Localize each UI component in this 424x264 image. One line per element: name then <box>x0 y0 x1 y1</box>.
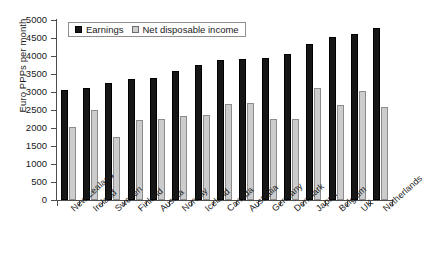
bar-group <box>306 20 321 200</box>
bar-earnings <box>262 58 269 200</box>
bar-net-disposable-income <box>225 104 232 200</box>
y-axis-tick-label: 1500 <box>26 140 47 152</box>
legend-label-earnings: Earnings <box>86 24 124 35</box>
y-axis-tick-label: 2500 <box>26 104 47 116</box>
y-axis-tick-label: 500 <box>31 176 47 188</box>
bar-net-disposable-income <box>337 105 344 200</box>
bar-earnings <box>128 79 135 200</box>
y-axis-tick-mark <box>51 164 56 165</box>
bar-group <box>329 20 344 200</box>
y-axis-tick-mark <box>51 110 56 111</box>
y-axis-tick-mark <box>51 20 56 21</box>
bar-group <box>262 20 277 200</box>
y-axis-tick-mark <box>51 56 56 57</box>
y-axis-tick-mark <box>51 38 56 39</box>
y-axis-tick: 3500 <box>0 68 56 80</box>
y-axis-tick: 4500 <box>0 32 56 44</box>
bar-earnings <box>239 59 246 200</box>
black-square-icon <box>75 26 82 33</box>
y-axis-tick-label: 1000 <box>26 158 47 170</box>
bar-earnings <box>195 65 202 200</box>
y-axis-tick: 0 <box>0 194 56 206</box>
bar-group <box>351 20 366 200</box>
bar-earnings <box>373 28 380 200</box>
y-axis-tick-mark <box>51 74 56 75</box>
y-axis-tick: 1500 <box>0 140 56 152</box>
y-axis-tick: 1000 <box>0 158 56 170</box>
y-axis-tick-label: 4500 <box>26 32 47 44</box>
bar-earnings <box>329 37 336 200</box>
chart-legend: Earnings Net disposable income <box>68 22 246 37</box>
y-axis-tick-label: 2000 <box>26 122 47 134</box>
y-axis-tick-label: 4000 <box>26 50 47 62</box>
y-axis-tick-mark <box>51 128 56 129</box>
bar-group <box>195 20 210 200</box>
bar-group <box>83 20 98 200</box>
y-axis-tick-mark <box>51 92 56 93</box>
bar-earnings <box>306 44 313 200</box>
gray-square-icon <box>132 26 139 33</box>
bar-earnings <box>172 71 179 200</box>
bar-earnings <box>61 90 68 200</box>
bar-group <box>150 20 165 200</box>
y-axis-tick-label: 3000 <box>26 86 47 98</box>
y-axis-tick: 5000 <box>0 14 56 26</box>
bar-earnings <box>150 78 157 200</box>
bar-net-disposable-income <box>381 107 388 200</box>
y-axis-tick: 500 <box>0 176 56 188</box>
bar-earnings <box>351 34 358 200</box>
bar-net-disposable-income <box>69 127 76 200</box>
bar-earnings <box>83 88 90 200</box>
legend-item-earnings: Earnings <box>75 24 124 35</box>
y-axis-tick-mark <box>51 200 56 201</box>
bar-earnings <box>284 54 291 200</box>
legend-item-net-disposable-income: Net disposable income <box>132 24 239 35</box>
bar-earnings <box>217 60 224 200</box>
y-axis-tick: 2500 <box>0 104 56 116</box>
bar-group <box>61 20 76 200</box>
y-axis-tick-label: 0 <box>42 194 47 206</box>
legend-label-net-disposable-income: Net disposable income <box>143 24 239 35</box>
bar-group <box>128 20 143 200</box>
y-axis-tick-mark <box>51 146 56 147</box>
y-axis-tick-label: 3500 <box>26 68 47 80</box>
y-axis-tick-label: 5000 <box>26 14 47 26</box>
bar-group <box>172 20 187 200</box>
y-axis-tick-mark <box>51 182 56 183</box>
bar-group <box>284 20 299 200</box>
bar-group <box>217 20 232 200</box>
x-axis-tick-mark <box>57 201 58 206</box>
bar-group <box>239 20 254 200</box>
bar-group <box>373 20 388 200</box>
y-axis-tick: 3000 <box>0 86 56 98</box>
y-axis-tick: 4000 <box>0 50 56 62</box>
bar-net-disposable-income <box>180 116 187 200</box>
y-axis-tick: 2000 <box>0 122 56 134</box>
